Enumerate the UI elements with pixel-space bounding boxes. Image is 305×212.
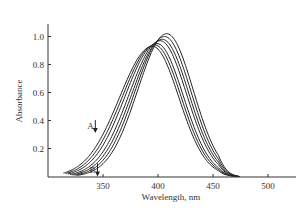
y-tick-label: 0.2 [33,144,44,154]
spectrum-curve [68,44,240,177]
x-tick-label: 350 [96,181,110,191]
spectrum-curve [63,46,239,176]
annotation-label-a: A [87,121,94,131]
x-tick-label: 450 [206,181,220,191]
y-tick-label: 0.8 [33,60,45,70]
annotation-label-b: B [90,165,96,175]
spectrum-curve [74,37,239,177]
spectrum-curve [66,45,240,177]
y-tick-label: 0.6 [33,88,45,98]
spectrum-curve [72,39,239,176]
y-tick-label: 0.4 [33,116,45,126]
arrowhead-icon [95,172,100,177]
x-axis-title: Wavelength, nm [142,192,201,202]
y-axis-title: Absorbance [14,80,24,123]
y-tick-label: 1.0 [33,32,45,42]
x-tick-label: 400 [151,181,165,191]
spectra-curves [63,34,239,177]
absorbance-chart: 0.20.40.60.81.0 350400450500 Absorbance … [0,0,305,212]
x-tick-label: 500 [261,181,275,191]
